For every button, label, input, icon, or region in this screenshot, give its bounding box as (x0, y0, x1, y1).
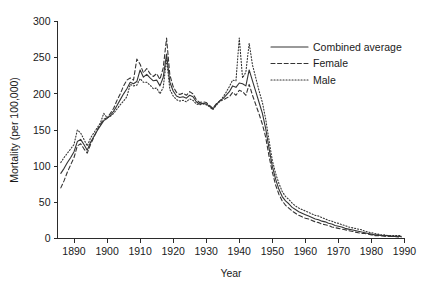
y-axis-title: Mortality (per 100,000) (8, 77, 20, 183)
axes (58, 22, 405, 239)
svg-text:1960: 1960 (294, 245, 318, 257)
svg-text:200: 200 (33, 88, 51, 100)
legend-label-combined-average: Combined average (313, 41, 402, 53)
series-line-combined-average (61, 54, 401, 236)
chart-legend: Combined averageFemaleMale (271, 41, 402, 86)
axis-ticks (54, 22, 405, 243)
svg-text:1940: 1940 (228, 245, 252, 257)
svg-text:150: 150 (33, 124, 51, 136)
y-axis-tick-labels: 050100150200250300 (33, 15, 51, 244)
svg-text:1890: 1890 (62, 245, 86, 257)
svg-text:50: 50 (39, 196, 51, 208)
svg-text:250: 250 (33, 51, 51, 63)
svg-text:1980: 1980 (360, 245, 384, 257)
svg-text:1950: 1950 (261, 245, 285, 257)
x-axis-tick-labels: 1890190019101920193019401950196019701980… (62, 245, 416, 257)
svg-text:1900: 1900 (95, 245, 119, 257)
svg-text:1930: 1930 (195, 245, 219, 257)
legend-label-male: Male (313, 74, 336, 86)
series-line-female (61, 38, 401, 237)
series-line-male (61, 38, 401, 235)
svg-text:1990: 1990 (393, 245, 417, 257)
svg-text:1970: 1970 (327, 245, 351, 257)
x-axis-title: Year (220, 267, 242, 279)
svg-text:1920: 1920 (161, 245, 185, 257)
svg-text:1910: 1910 (128, 245, 152, 257)
svg-text:100: 100 (33, 160, 51, 172)
mortality-line-chart-figure: 1890190019101920193019401950196019701980… (0, 0, 426, 291)
data-series-group (61, 38, 401, 237)
chart-canvas: 1890190019101920193019401950196019701980… (0, 0, 426, 291)
svg-text:300: 300 (33, 15, 51, 27)
svg-text:0: 0 (45, 232, 51, 244)
legend-label-female: Female (313, 57, 348, 69)
